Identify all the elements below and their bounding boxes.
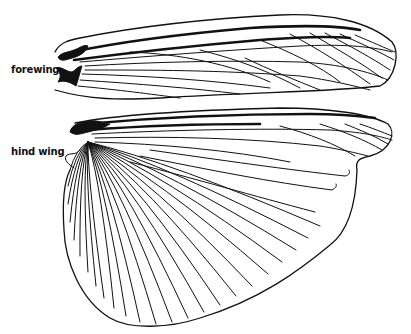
forewing-costal-vein <box>72 26 360 52</box>
hind-wing-vein <box>150 150 350 176</box>
hind-wing-fan-vein <box>88 142 320 226</box>
hind-wing-fan-vein <box>88 142 252 286</box>
hind-wing-fan-vein <box>88 142 204 312</box>
forewing <box>55 15 396 99</box>
hind-wing-vein <box>280 126 355 156</box>
forewing-subcostal-vein <box>74 37 350 60</box>
hind-wing-jugal-curl <box>65 150 80 168</box>
hind-wing-vein <box>320 124 382 150</box>
hind-wing-vein <box>95 137 368 156</box>
forewing-vein <box>82 74 270 88</box>
hind-wing-fan-vein <box>88 142 172 322</box>
wing-illustration <box>0 0 411 334</box>
forewing-vein <box>310 33 382 78</box>
forewing-base-sclerite-lower <box>56 66 82 86</box>
forewing-vein <box>85 61 388 80</box>
hind-wing-fan-veins <box>65 142 320 324</box>
hind-wing-vein <box>92 129 392 140</box>
forewing-vein <box>78 86 180 98</box>
hind-wing-fan-vein <box>88 142 282 262</box>
forewing-vein <box>325 33 390 70</box>
hind-wing-fan-vein <box>88 142 220 305</box>
